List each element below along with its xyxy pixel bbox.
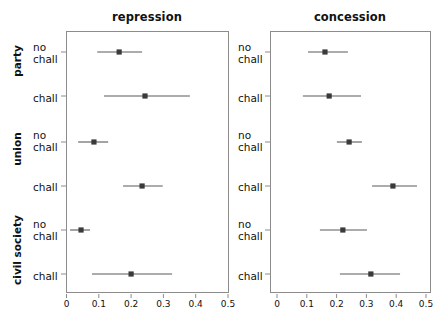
estimate-point — [340, 227, 345, 232]
estimate-point — [322, 49, 327, 54]
estimate-point — [91, 139, 96, 144]
coefficient-plot-figure: repression concession party union civil … — [0, 0, 441, 317]
x-axis-tick-label: 0.2 — [323, 299, 351, 309]
x-axis-tick-label: 0.3 — [352, 299, 380, 309]
plot-overlay — [0, 0, 441, 317]
estimate-point — [368, 271, 373, 276]
axis-group-concession — [265, 52, 426, 298]
x-axis-tick-label: 0 — [53, 299, 81, 309]
estimate-point — [139, 183, 144, 188]
estimate-point — [327, 93, 332, 98]
x-axis-tick-label: 0.1 — [293, 299, 321, 309]
estimate-point — [142, 93, 147, 98]
x-axis-tick-label: 0.3 — [149, 299, 177, 309]
x-axis-tick-label: 0.1 — [85, 299, 113, 309]
estimate-point — [117, 49, 122, 54]
marks-group-repression — [70, 49, 190, 276]
x-axis-tick-label: 0.4 — [382, 299, 410, 309]
x-axis-tick-label: 0 — [263, 299, 291, 309]
axis-group-repression — [61, 52, 228, 298]
estimate-point — [78, 227, 83, 232]
x-axis-tick-label: 0.4 — [182, 299, 210, 309]
x-axis-tick-label: 0.2 — [117, 299, 145, 309]
estimate-point — [129, 271, 134, 276]
x-axis-tick-label: 0.5 — [214, 299, 242, 309]
marks-group-concession — [303, 49, 417, 276]
x-axis-tick-label: 0.5 — [412, 299, 440, 309]
estimate-point — [390, 183, 395, 188]
estimate-point — [347, 139, 352, 144]
